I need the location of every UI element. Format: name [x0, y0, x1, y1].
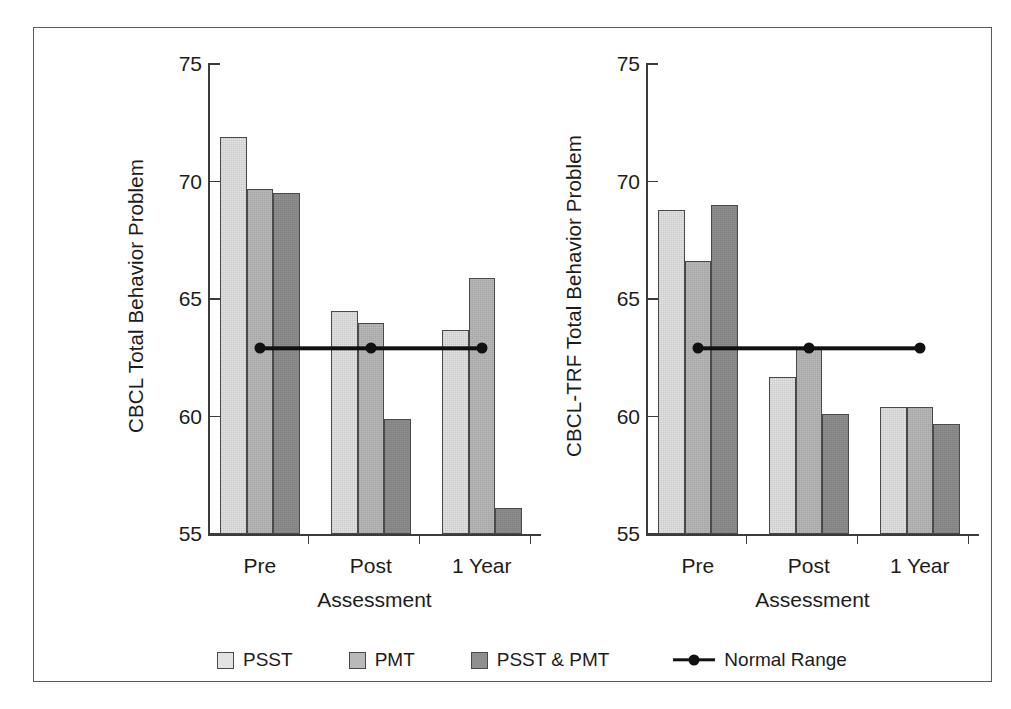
legend-label-psst-and-pmt: PSST & PMT — [497, 649, 610, 671]
x-tick-label-left-1-year: 1 Year — [452, 554, 512, 578]
bar-right-1-year-pmt — [907, 407, 934, 534]
legend-item-pmt: PMT — [349, 649, 415, 671]
y-tick-label-right-70: 70 — [617, 169, 640, 193]
legend-swatch-icon-psst-and-pmt — [471, 652, 488, 669]
plot-area-right: Assessment 5560657075PrePost1 Year — [646, 64, 979, 534]
legend-item-normal-range: Normal Range — [673, 649, 847, 671]
y-tick-left-60 — [208, 416, 220, 418]
legend-item-psst-and-pmt: PSST & PMT — [471, 649, 610, 671]
chart-panel-right: CBCL-TRF Total Behavior Problem Assessme… — [592, 28, 1011, 628]
x-tick-right-2 — [968, 534, 970, 544]
legend-swatch-icon-pmt — [349, 652, 366, 669]
y-tick-label-left-70: 70 — [179, 169, 202, 193]
normal-range-marker-left-1-year — [476, 343, 487, 354]
x-tick-left-0 — [308, 534, 310, 544]
y-tick-label-left-55: 55 — [179, 522, 202, 546]
legend-line-dot-icon-normal-range — [673, 653, 715, 667]
bar-right-pre-pmt — [685, 261, 712, 534]
y-tick-label-right-60: 60 — [617, 404, 640, 428]
x-axis-line-right — [646, 534, 979, 536]
bar-right-post-pmt — [796, 348, 823, 534]
bar-right-pre-psst-pmt — [711, 205, 738, 534]
normal-range-marker-right-post — [803, 343, 814, 354]
legend-label-psst: PSST — [243, 649, 293, 671]
bar-left-post-psst — [331, 311, 358, 534]
y-axis-label-right: CBCL-TRF Total Behavior Problem — [562, 56, 586, 536]
legend-item-psst: PSST — [217, 649, 293, 671]
y-tick-label-left-60: 60 — [179, 404, 202, 428]
y-tick-right-65 — [646, 298, 658, 300]
bar-left-1-year-psst — [442, 330, 469, 534]
bar-left-pre-psst-pmt — [273, 193, 300, 534]
x-tick-right-0 — [746, 534, 748, 544]
y-tick-left-75 — [208, 63, 220, 65]
legend-label-pmt: PMT — [375, 649, 415, 671]
legend-swatch-icon-psst — [217, 652, 234, 669]
y-tick-right-70 — [646, 181, 658, 183]
chart-panel-left: CBCL Total Behavior Problem Assessment 5… — [154, 28, 614, 628]
plot-area-left: Assessment 5560657075PrePost1 Year — [208, 64, 541, 534]
x-tick-left-1 — [419, 534, 421, 544]
chart-legend: PSST PMT PSST & PMT Normal Range — [184, 643, 884, 677]
x-tick-label-right-pre: Pre — [681, 554, 714, 578]
bar-left-1-year-pmt — [469, 278, 496, 534]
x-tick-label-right-post: Post — [788, 554, 830, 578]
bar-left-1-year-psst-pmt — [495, 508, 522, 534]
x-tick-label-left-pre: Pre — [243, 554, 276, 578]
x-axis-label-right: Assessment — [646, 588, 979, 612]
y-tick-right-60 — [646, 416, 658, 418]
y-tick-label-right-65: 65 — [617, 287, 640, 311]
y-tick-label-right-75: 75 — [617, 52, 640, 76]
y-tick-right-55 — [646, 533, 658, 535]
y-tick-left-65 — [208, 298, 220, 300]
bar-left-pre-pmt — [247, 189, 274, 534]
y-axis-label-left: CBCL Total Behavior Problem — [124, 56, 148, 536]
y-tick-right-75 — [646, 63, 658, 65]
x-tick-label-left-post: Post — [350, 554, 392, 578]
x-tick-right-1 — [857, 534, 859, 544]
bar-right-post-psst — [769, 377, 796, 534]
bar-right-1-year-psst-pmt — [933, 424, 960, 534]
bar-left-post-psst-pmt — [384, 419, 411, 534]
y-tick-left-55 — [208, 533, 220, 535]
bar-right-pre-psst — [658, 210, 685, 534]
figure-frame: CBCL Total Behavior Problem Assessment 5… — [33, 27, 992, 682]
bar-right-1-year-psst — [880, 407, 907, 534]
figure-canvas: CBCL Total Behavior Problem Assessment 5… — [0, 0, 1011, 709]
normal-range-marker-right-pre — [692, 343, 703, 354]
x-tick-left-2 — [530, 534, 532, 544]
bar-left-pre-psst — [220, 137, 247, 534]
legend-label-normal-range: Normal Range — [724, 649, 847, 671]
normal-range-marker-right-1-year — [914, 343, 925, 354]
y-tick-label-left-65: 65 — [179, 287, 202, 311]
bar-left-post-pmt — [358, 323, 385, 535]
y-tick-label-left-75: 75 — [179, 52, 202, 76]
normal-range-marker-left-post — [365, 343, 376, 354]
y-tick-left-70 — [208, 181, 220, 183]
normal-range-marker-left-pre — [254, 343, 265, 354]
x-axis-line-left — [208, 534, 541, 536]
x-axis-label-left: Assessment — [208, 588, 541, 612]
bar-right-post-psst-pmt — [822, 414, 849, 534]
x-tick-label-right-1-year: 1 Year — [890, 554, 950, 578]
y-tick-label-right-55: 55 — [617, 522, 640, 546]
